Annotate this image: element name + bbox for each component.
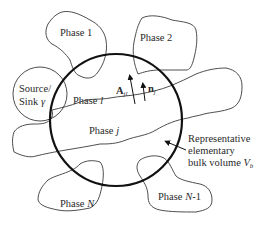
phase-2-label: Phase 2: [140, 32, 172, 43]
rev-label-line1: Representative: [188, 133, 251, 144]
source-sink-circle: [13, 67, 67, 121]
phase-j-prefix: Phase: [89, 125, 116, 136]
area-vector-subscript: jl: [123, 90, 128, 98]
phase-j-label: Phase j: [89, 125, 119, 136]
phase-n1-suffix: -1: [192, 191, 201, 202]
phase-l-var: l: [100, 95, 103, 106]
phase-n-label: Phase N: [60, 198, 95, 209]
rev-label-line2: elementary: [188, 145, 235, 156]
phase-1-label: Phase 1: [60, 27, 92, 38]
area-vector-arrow: [130, 77, 135, 104]
rev-label-text: bulk volume: [188, 157, 243, 168]
source-sink-text: Sink: [19, 96, 41, 107]
normal-vector-label: nj: [148, 83, 156, 96]
source-sink-label-line2: Sink γ: [19, 96, 46, 107]
source-sink-label-line1: Source/: [19, 83, 51, 94]
phase-n-var: N: [86, 198, 95, 209]
phase-l-j-interface: [52, 68, 242, 118]
rev-label-subscript: b: [250, 162, 254, 170]
multiphase-rev-diagram: Phase 1 Phase 2 Phase l Phase j Phase N …: [0, 0, 267, 228]
phase-n-prefix: Phase: [60, 198, 87, 209]
phase-l-prefix: Phase: [73, 95, 100, 106]
rev-boundary-circle: [50, 54, 182, 186]
rev-label-line3: bulk volume Vb: [188, 157, 254, 170]
phase-l-label: Phase l: [73, 95, 103, 106]
source-sink-symbol: γ: [41, 96, 46, 107]
phase-n-minus-1-label: Phase N-1: [158, 191, 201, 202]
phase-2-region: [133, 16, 197, 74]
phase-n1-prefix: Phase: [158, 191, 185, 202]
normal-vector-subscript: j: [153, 88, 156, 96]
